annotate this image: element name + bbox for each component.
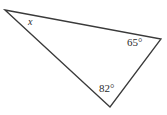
angle-label-82-degrees: 82° [99, 83, 114, 94]
triangle-shape [0, 0, 167, 115]
triangle-figure: x 65° 82° [0, 0, 167, 115]
angle-label-65-degrees: 65° [127, 37, 142, 48]
angle-label-unknown-x: x [28, 17, 32, 27]
